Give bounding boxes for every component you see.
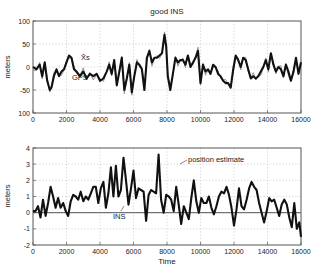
x-tick-label: 6000 [126,248,142,255]
y-tick-label: -2 [24,242,30,249]
annotation-position-estimate: position estimate [188,155,244,164]
y-tick-label: 1 [26,193,30,200]
x-tick-label: 14000 [258,116,278,123]
y-tick-label: 0 [26,209,30,216]
y-tick-label: 3 [26,161,30,168]
top-subplot: 0200040006000800010000120001400016000100… [3,7,311,123]
position-estimate-series-line [33,155,301,237]
x-tick-label: 8000 [159,248,175,255]
x-tick-label: 12000 [224,248,244,255]
x-tick-label: 16000 [291,248,311,255]
y-tick-label: 50 [22,41,30,48]
y-tick-label: 4 [26,145,30,152]
y-tick-label: 100 [18,110,30,117]
y-tick-label: 100 [18,18,30,25]
top-title: good INS [150,7,183,16]
x-tick-label: 0 [31,248,35,255]
x-tick-label: 14000 [258,248,278,255]
x-tick-label: 6000 [126,116,142,123]
x-tick-label: 16000 [291,116,311,123]
x-tick-label: 10000 [191,248,211,255]
x-tick-label: 8000 [159,116,175,123]
bottom-subplot: 0200040006000800010000120001400016000432… [3,145,311,267]
x-tick-label: 10000 [191,116,211,123]
annotation-xs-estimate: X̂s [81,53,90,62]
ins-pointer [121,206,124,211]
y-tick-label: 2 [26,177,30,184]
x-tick-label: 2000 [59,116,75,123]
y-tick-label: 0 [26,64,30,71]
y-tick-label: -1 [24,225,30,232]
figure: 0200040006000800010000120001400016000100… [0,0,322,275]
bottom-xlabel: Time [158,257,176,266]
x-tick-label: 2000 [59,248,75,255]
annotation-ins: INS [113,212,126,221]
top-ylabel: meters [3,55,12,78]
x-tick-label: 0 [31,116,35,123]
position-estimate-pointer [180,160,187,164]
x-tick-label: 4000 [92,116,108,123]
x-tick-label: 12000 [224,116,244,123]
bottom-ylabel: meters [3,184,12,207]
x-tick-label: 4000 [92,248,108,255]
annotation-gps: GPS [72,73,88,82]
y-tick-label: -50 [20,87,30,94]
